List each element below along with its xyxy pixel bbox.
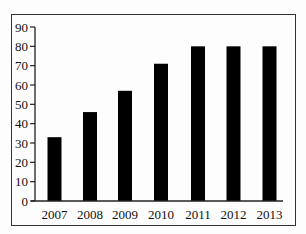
x-tick-label: 2008 [77,207,103,222]
y-tick-label: 90 [15,20,28,35]
x-tick-label: 2009 [112,207,138,222]
bar-2013 [263,46,277,201]
bars [48,46,277,201]
y-tick-label: 40 [15,116,28,131]
y-tick-label: 0 [22,194,29,209]
y-tick-label: 50 [15,97,28,112]
y-tick-label: 80 [15,39,28,54]
bar-2007 [48,137,62,201]
y-axis: 0102030405060708090 [15,20,35,209]
x-axis: 2007200820092010201120122013 [31,201,283,222]
x-tick-label: 2012 [221,207,247,222]
y-tick-label: 70 [15,58,28,73]
y-tick-label: 20 [15,155,28,170]
x-tick-label: 2013 [257,207,283,222]
bar-2011 [191,46,205,201]
bar-2012 [227,46,241,201]
y-tick-label: 60 [15,78,28,93]
x-tick-label: 2007 [42,207,69,222]
y-tick-label: 30 [15,136,28,151]
x-tick-label: 2010 [148,207,174,222]
bar-2010 [154,64,168,201]
bar-2009 [118,91,132,201]
bar-chart: 0102030405060708090 20072008200920102011… [0,0,306,234]
x-tick-label: 2011 [185,207,211,222]
bar-2008 [83,112,97,201]
y-tick-label: 10 [15,174,28,189]
